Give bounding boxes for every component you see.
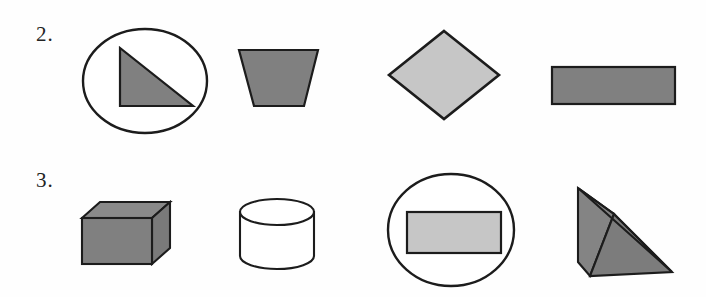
cube-front-face — [82, 218, 152, 264]
shape-circle-with-right-triangle[interactable] — [78, 24, 218, 142]
inner-rectangle — [407, 212, 501, 253]
shape-triangular-prism[interactable] — [566, 180, 684, 290]
worksheet-page: 2. 3. — [0, 0, 706, 297]
shape-rectangle[interactable] — [548, 62, 680, 110]
shape-circle-with-rectangle[interactable] — [382, 168, 524, 294]
cylinder-top-ellipse — [240, 199, 314, 225]
trapezoid-body — [239, 50, 318, 106]
row-label-2: 2. — [36, 24, 54, 45]
shape-trapezoid[interactable] — [234, 44, 326, 114]
shape-cube[interactable] — [76, 194, 178, 272]
diamond-body — [389, 31, 499, 119]
row-label-3: 3. — [36, 170, 54, 191]
shape-diamond[interactable] — [382, 24, 506, 126]
shape-cylinder[interactable] — [232, 194, 324, 278]
rectangle-body — [552, 67, 675, 104]
